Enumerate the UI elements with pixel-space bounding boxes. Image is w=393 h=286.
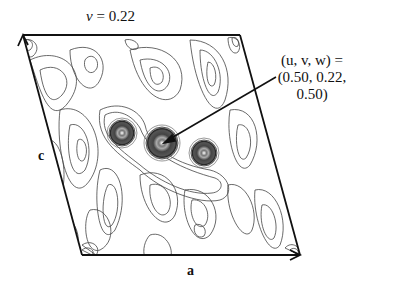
coordinate-value: (0.50, 0.22, 0.50) <box>267 69 357 103</box>
coordinate-label: (u, v, w) = <box>267 52 357 69</box>
slice-variable: v <box>86 8 93 24</box>
axis-label-a: a <box>187 263 194 279</box>
slice-value: = 0.22 <box>93 8 135 24</box>
slice-title: v = 0.22 <box>86 8 135 25</box>
axis-label-c: c <box>38 148 44 164</box>
c-axis-arrowhead <box>18 35 28 46</box>
contour-map <box>0 0 393 286</box>
coordinate-annotation: (u, v, w) = (0.50, 0.22, 0.50) <box>267 52 357 103</box>
